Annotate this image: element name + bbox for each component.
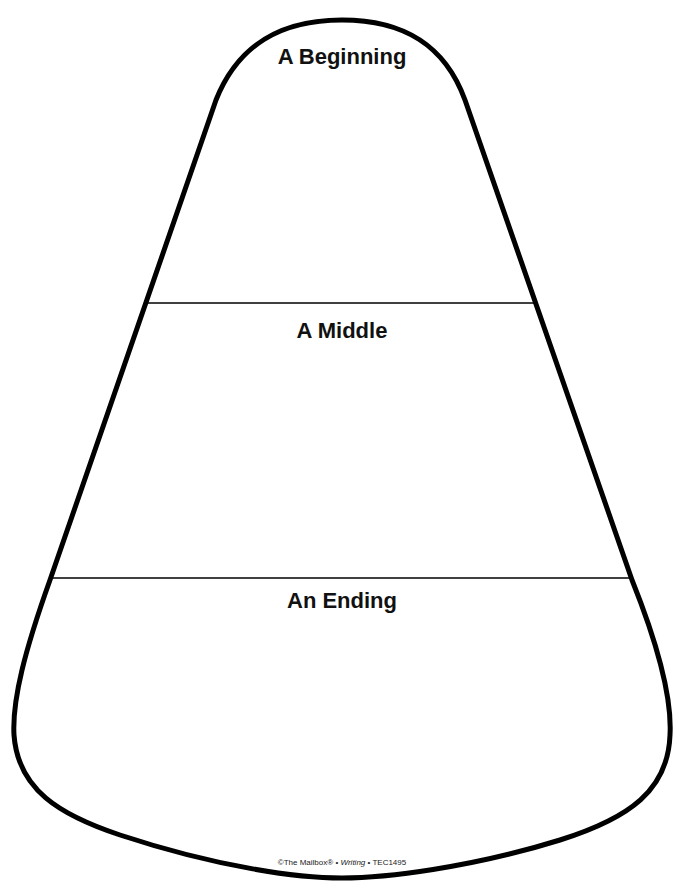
credit-subject: Writing — [340, 858, 365, 867]
candy-corn-organizer: A Beginning A Middle An Ending ©The Mail… — [0, 0, 684, 893]
copyright-credit: ©The Mailbox® • Writing • TEC1495 — [0, 858, 684, 867]
section-title-middle: A Middle — [0, 318, 684, 344]
credit-publisher: ©The Mailbox® — [278, 858, 333, 867]
candy-corn-outline — [0, 0, 684, 893]
section-title-beginning: A Beginning — [0, 44, 684, 70]
section-title-ending: An Ending — [0, 588, 684, 614]
credit-code: TEC1495 — [372, 858, 406, 867]
